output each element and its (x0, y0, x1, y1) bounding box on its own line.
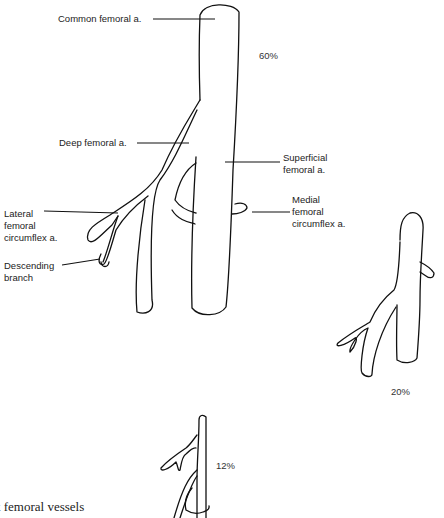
variant-20-vessel-tree (337, 213, 434, 377)
main-vessel-tree (87, 5, 247, 315)
vessel-drawings (0, 0, 444, 518)
label-deep-femoral: Deep femoral a. (59, 137, 127, 149)
label-medial-circumflex: Medial femoral circumflex a. (292, 194, 345, 230)
variant-12-vessel-tree (161, 415, 209, 518)
figure-caption: k femoral vessels (0, 499, 84, 515)
label-common-femoral: Common femoral a. (58, 13, 141, 25)
femoral-vessel-diagram: Common femoral a. Deep femoral a. Superf… (0, 0, 444, 518)
percentage-bottom-variant: 12% (216, 460, 235, 471)
label-superficial-femoral: Superficial femoral a. (283, 152, 327, 176)
label-descending-branch: Descending branch (4, 260, 54, 284)
percentage-main: 60% (259, 50, 278, 61)
percentage-right-variant: 20% (391, 386, 410, 397)
label-lateral-circumflex: Lateral femoral circumflex a. (4, 208, 57, 244)
leader-descending-branch (62, 259, 100, 265)
